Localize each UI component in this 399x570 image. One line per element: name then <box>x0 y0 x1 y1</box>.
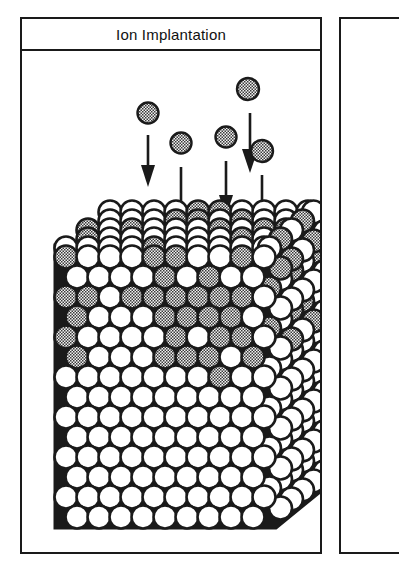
incident-ion <box>138 103 159 124</box>
host-atom <box>198 506 221 529</box>
incident-ion <box>237 78 259 100</box>
incident-ion <box>251 140 273 162</box>
host-atom <box>242 506 265 529</box>
incident-ion <box>216 127 237 148</box>
panel-title-bar: Ion Implantation <box>22 19 320 51</box>
page-title: Ion Implantation <box>116 27 226 42</box>
adjacent-panel <box>339 17 399 554</box>
diagram-stage <box>22 51 320 552</box>
incident-ion <box>171 133 192 154</box>
host-atom <box>176 506 199 529</box>
host-atom <box>66 506 89 529</box>
host-atom <box>132 506 155 529</box>
host-atom <box>88 506 111 529</box>
host-atom <box>154 506 177 529</box>
ion-1-group <box>138 103 159 188</box>
host-atom <box>220 506 243 529</box>
ion-implantation-diagram <box>22 51 320 552</box>
crystal-lattice <box>54 199 321 530</box>
host-atom <box>110 506 133 529</box>
ion-trajectory-arrowhead <box>141 165 155 187</box>
ion-implantation-panel: Ion Implantation <box>20 17 322 554</box>
